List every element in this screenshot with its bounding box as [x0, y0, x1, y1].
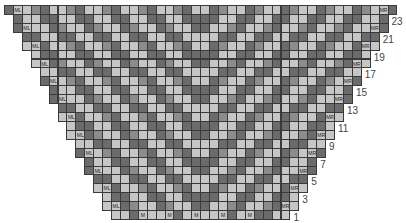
- row-number-label: 21: [383, 35, 394, 45]
- chart-cell: [343, 94, 353, 104]
- row-number-label: 5: [311, 177, 317, 187]
- chart-cell: [388, 5, 398, 15]
- row-number-label: 19: [374, 53, 385, 63]
- row-number-label: 1: [293, 213, 299, 223]
- row-number-label: 7: [320, 160, 326, 170]
- chart-cell: [352, 76, 362, 86]
- knitting-chart: MLMR23MLMR21MLMR19MLMR17MLMR15MLMR13MLMR…: [0, 0, 406, 223]
- chart-cell: [379, 23, 389, 33]
- chart-cell: [281, 210, 291, 220]
- row-number-label: 3: [302, 195, 308, 205]
- row-number-label: 17: [365, 70, 376, 80]
- row-number-label: 9: [329, 142, 335, 152]
- chart-cell: [289, 201, 299, 211]
- chart-cell: [361, 59, 371, 69]
- chart-cell: [316, 148, 326, 158]
- chart-cell: [307, 166, 317, 176]
- chart-cell: [298, 183, 308, 193]
- row-number-label: 23: [392, 17, 403, 27]
- row-number-label: 15: [356, 88, 367, 98]
- row-number-label: 13: [347, 106, 358, 116]
- row-number-label: 11: [338, 124, 348, 134]
- chart-cell: [370, 41, 380, 51]
- chart-cell: [334, 112, 344, 122]
- chart-cell: [325, 130, 335, 140]
